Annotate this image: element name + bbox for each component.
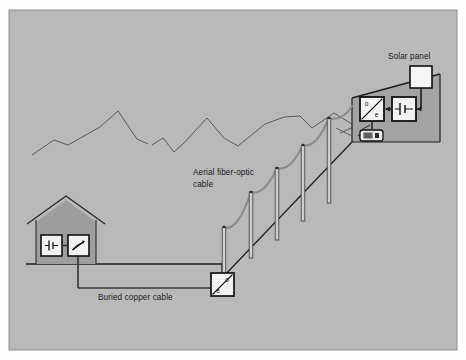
utility-pole [249, 191, 253, 258]
oe-converter-box[interactable]: o e [360, 97, 384, 121]
house-meter-box[interactable] [68, 235, 89, 256]
aerial-cable-label-line1: Aerial fiber-optic [193, 168, 254, 177]
utility-pole [222, 226, 226, 277]
solar-panel[interactable] [410, 66, 432, 88]
buried-cable-label: Buried copper cable [98, 293, 173, 302]
house-power-box[interactable] [41, 235, 62, 256]
charge-controller-box[interactable] [392, 97, 416, 121]
eo-label-o: o [225, 276, 229, 283]
scene-frame [9, 10, 457, 350]
solar-panel-label: Solar panel [388, 52, 431, 61]
figure-root: o e o e [0, 0, 466, 360]
utility-pole [327, 117, 331, 203]
eo-converter-box[interactable]: o e [211, 273, 234, 296]
aerial-cable-label-line2: cable [193, 180, 213, 189]
eo-label-e: e [216, 287, 220, 294]
diagram-canvas: o e o e [0, 0, 466, 360]
oe-label-e: e [375, 111, 379, 118]
utility-pole [275, 167, 279, 240]
utility-pole [301, 144, 305, 221]
oe-label-o: o [365, 100, 369, 107]
